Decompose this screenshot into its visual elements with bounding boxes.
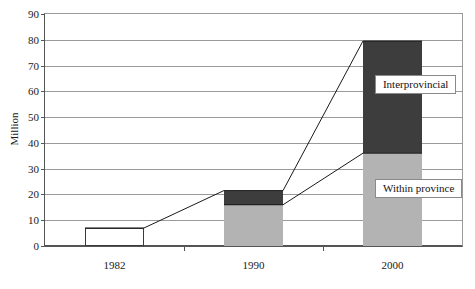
- y-tick-mark-20: [41, 194, 45, 195]
- bar-segment-1982-within-province: [85, 228, 144, 246]
- x-tick-label-1990: 1990: [243, 260, 265, 271]
- y-tick-mark-80: [41, 40, 45, 41]
- within-province-callout: Within province: [375, 179, 462, 198]
- y-tick-mark-10: [41, 220, 45, 221]
- y-tick-label-30: 30: [28, 163, 39, 174]
- y-tick-mark-30: [41, 169, 45, 170]
- y-tick-label-20: 20: [28, 189, 39, 200]
- bar-segment-2000-interprovincial: [363, 41, 422, 153]
- chart-figure: Million 0102030405060708090 198219902000…: [0, 0, 475, 289]
- bar-segment-1990-within-province: [224, 205, 283, 246]
- y-tick-label-0: 0: [34, 241, 40, 252]
- y-tick-label-10: 10: [28, 215, 39, 226]
- y-tick-mark-60: [41, 91, 45, 92]
- y-tick-mark-50: [41, 117, 45, 118]
- x-tick-label-2000: 2000: [382, 260, 404, 271]
- plot-area: 0102030405060708090 198219902000 Interpr…: [44, 13, 463, 247]
- y-tick-mark-90: [41, 14, 45, 15]
- y-tick-label-40: 40: [28, 137, 39, 148]
- bar-segment-1990-interprovincial: [224, 191, 283, 205]
- y-tick-label-90: 90: [28, 9, 39, 20]
- y-axis-title-label: Million: [7, 112, 19, 145]
- y-tick-mark-40: [41, 143, 45, 144]
- y-tick-mark-70: [41, 66, 45, 67]
- x-tick-mark-2: [323, 246, 324, 251]
- y-tick-label-50: 50: [28, 112, 39, 123]
- bar-segment-2000-within-province: [363, 153, 422, 246]
- x-tick-label-1982: 1982: [104, 260, 126, 271]
- y-tick-label-60: 60: [28, 86, 39, 97]
- interprovincial-callout: Interprovincial: [375, 75, 456, 94]
- y-tick-label-80: 80: [28, 34, 39, 45]
- y-tick-mark-0: [41, 246, 45, 247]
- y-axis-title: Million: [6, 13, 20, 245]
- x-tick-mark-1: [184, 246, 185, 251]
- y-tick-label-70: 70: [28, 60, 39, 71]
